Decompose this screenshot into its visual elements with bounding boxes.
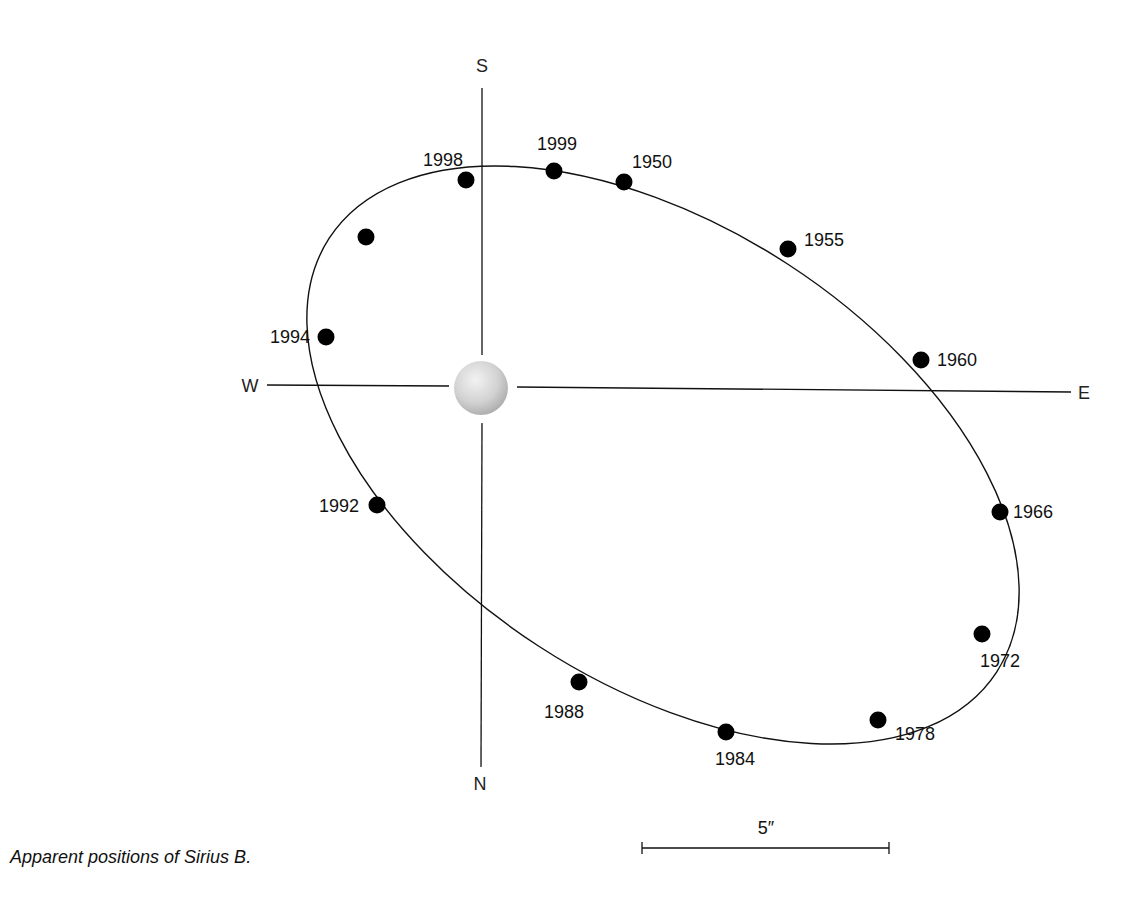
orbit-position: 1960 — [913, 350, 978, 370]
year-label: 1984 — [715, 749, 755, 769]
year-label: 1950 — [632, 152, 672, 172]
position-dot — [992, 504, 1009, 521]
position-dot — [913, 352, 930, 369]
axis-west-segment — [267, 385, 449, 386]
year-label: 1988 — [544, 702, 584, 722]
year-label: 1992 — [319, 496, 359, 516]
orbit-position: 1988 — [544, 674, 588, 723]
position-dot — [974, 626, 991, 643]
orbit-position: 1950 — [616, 152, 673, 191]
position-dot — [318, 329, 335, 346]
figure-caption: Apparent positions of Sirius B. — [10, 847, 251, 868]
position-dot — [718, 724, 735, 741]
compass-south-label: S — [476, 56, 488, 76]
year-label: 1978 — [895, 724, 935, 744]
compass-west-label: W — [242, 376, 259, 396]
orbit-positions: 1950195519601966197219781984198819921994… — [270, 134, 1053, 769]
year-label: 1999 — [537, 134, 577, 154]
orbit-position: 1999 — [537, 134, 577, 180]
orbit-position: 1966 — [992, 502, 1054, 522]
position-dot — [546, 163, 563, 180]
compass-north-label: N — [474, 774, 487, 794]
orbit-position: 1984 — [715, 724, 755, 770]
orbit-position: 1992 — [319, 496, 386, 516]
year-label: 1955 — [804, 230, 844, 250]
year-label: 1994 — [270, 327, 310, 347]
orbit-position — [358, 229, 375, 246]
year-label: 1972 — [980, 651, 1020, 671]
position-dot — [780, 241, 797, 258]
year-label: 1998 — [423, 150, 463, 170]
position-dot — [358, 229, 375, 246]
position-dot — [571, 674, 588, 691]
axis-east-segment — [517, 387, 1071, 392]
year-label: 1960 — [937, 350, 977, 370]
orbit-position: 1978 — [870, 712, 936, 745]
position-dot — [870, 712, 887, 729]
sirius-a-star — [454, 361, 508, 415]
orbit-position: 1955 — [780, 230, 845, 258]
orbit-position: 1998 — [423, 150, 475, 189]
scale-bar-label: 5″ — [758, 818, 775, 838]
scale-bar: 5″ — [642, 818, 889, 854]
orbit-position: 1994 — [270, 327, 335, 347]
orbit-position: 1972 — [974, 626, 1021, 672]
year-label: 1966 — [1013, 502, 1053, 522]
position-dot — [458, 172, 475, 189]
sirius-b-orbit-diagram: S N W E 19501955196019661972197819841988… — [0, 0, 1140, 905]
axis-north-segment — [481, 423, 482, 767]
position-dot — [616, 174, 633, 191]
compass-east-label: E — [1078, 383, 1090, 403]
position-dot — [369, 497, 386, 514]
